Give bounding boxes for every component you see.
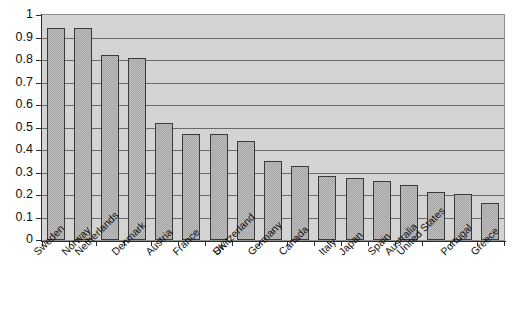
x-axis-category-label: Austria: [143, 226, 175, 258]
x-axis-category-labels: SwedenNorwayNetherlandsDenmarkAustriaFra…: [0, 0, 517, 315]
x-axis-category-label: Italy: [316, 235, 338, 257]
x-axis-category-label: Sweden: [31, 222, 66, 257]
x-axis-category-label: Japan: [336, 229, 365, 258]
bar-chart: 00.10.20.30.40.50.60.70.80.91 SwedenNorw…: [0, 0, 517, 315]
x-axis-category-label: France: [170, 226, 202, 258]
x-axis-category-label: Denmark: [109, 219, 148, 258]
x-axis-category-label: Portugal: [438, 221, 474, 257]
